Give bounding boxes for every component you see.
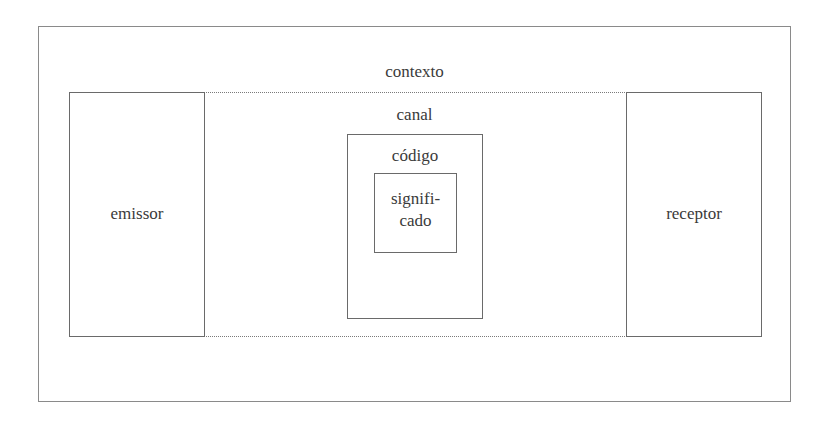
meaning-label-line2: cado xyxy=(374,210,457,232)
code-label: código xyxy=(347,145,483,167)
context-label: contexto xyxy=(338,61,491,83)
meaning-label-line1: signifi- xyxy=(374,188,457,210)
receiver-label: receptor xyxy=(626,203,762,225)
sender-label: emissor xyxy=(69,203,205,225)
channel-label: canal xyxy=(338,104,491,126)
